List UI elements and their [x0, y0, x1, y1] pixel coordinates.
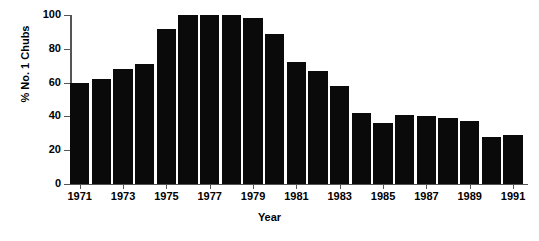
y-axis-tick-label: 100 — [28, 9, 61, 20]
x-axis-line — [70, 184, 528, 185]
x-axis-tick-label: 1991 — [491, 191, 535, 202]
plot-area — [70, 15, 525, 184]
x-axis-title: Year — [0, 211, 539, 223]
bar — [395, 115, 414, 184]
x-axis-tick — [340, 184, 341, 189]
x-axis-tick-label: 1983 — [318, 191, 362, 202]
bar — [243, 18, 262, 184]
x-axis-tick-label: 1987 — [404, 191, 448, 202]
x-axis-tick — [253, 184, 254, 189]
x-axis-tick-label: 1973 — [101, 191, 145, 202]
x-axis-tick-label: 1977 — [188, 191, 232, 202]
bar — [417, 116, 436, 184]
x-axis-tick-label: 1981 — [274, 191, 318, 202]
bar — [135, 64, 154, 184]
bar — [460, 121, 479, 184]
bar — [92, 79, 111, 184]
x-axis-tick — [513, 184, 514, 189]
x-axis-tick — [426, 184, 427, 189]
bar — [373, 123, 392, 184]
bar — [503, 135, 522, 184]
y-axis-tick-label: 20 — [28, 144, 61, 155]
bar — [178, 15, 197, 184]
y-axis-tick-label: 0 — [28, 178, 61, 189]
bar — [308, 71, 327, 184]
bar — [222, 15, 241, 184]
bar — [330, 86, 349, 184]
x-axis-tick — [470, 184, 471, 189]
x-axis-tick-label: 1989 — [448, 191, 492, 202]
x-axis-tick-label: 1971 — [58, 191, 102, 202]
x-axis-tick — [80, 184, 81, 189]
x-axis-tick — [123, 184, 124, 189]
x-axis-tick-label: 1979 — [231, 191, 275, 202]
bar — [265, 34, 284, 184]
bar — [157, 29, 176, 184]
bar — [438, 118, 457, 184]
x-axis-tick — [296, 184, 297, 189]
x-axis-tick-label: 1975 — [144, 191, 188, 202]
x-axis-tick — [166, 184, 167, 189]
y-axis-tick-label: 40 — [28, 110, 61, 121]
x-axis-tick-label: 1985 — [361, 191, 405, 202]
y-axis-tick — [64, 184, 71, 185]
bar — [113, 69, 132, 184]
bar — [482, 137, 501, 184]
y-axis-tick-label: 80 — [28, 43, 61, 54]
bar-chart-figure: % No. 1 Chubs 020406080100 1971197319751… — [0, 0, 539, 241]
bar — [200, 15, 219, 184]
y-axis-tick-label: 60 — [28, 77, 61, 88]
x-axis-tick — [210, 184, 211, 189]
bar — [287, 62, 306, 184]
x-axis-tick — [383, 184, 384, 189]
bar — [352, 113, 371, 184]
bar — [70, 83, 89, 184]
